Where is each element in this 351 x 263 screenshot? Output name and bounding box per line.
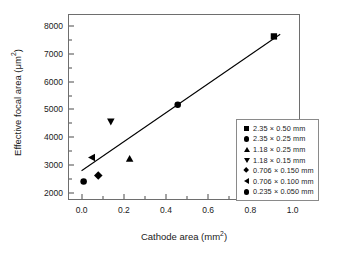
tri-down-icon: [244, 158, 250, 163]
x-tick-label: 0.2: [118, 199, 130, 215]
y-tick-mark-minor: [69, 123, 72, 124]
y-tick-label: 2000: [44, 188, 69, 197]
tri-left-icon: [244, 178, 249, 184]
legend-marker-tri-left-icon: [240, 178, 253, 184]
y-tick-mark-minor: [69, 67, 72, 68]
figure-scatter-cathode-vs-focal-area: 2000300040005000600070008000 0.00.20.40.…: [0, 0, 351, 263]
data-point: [107, 119, 115, 126]
x-axis-title-tail: ): [224, 231, 227, 242]
y-tick-label: 5000: [44, 105, 69, 114]
x-tick-label: 0.6: [202, 199, 214, 215]
legend-marker-tri-down-icon: [240, 158, 253, 163]
legend-item: 2.35 × 0.50 mm: [240, 123, 314, 134]
legend-item: 1.18 × 0.15 mm: [240, 155, 314, 166]
data-point: [88, 154, 95, 162]
y-tick-mark-minor: [69, 39, 72, 40]
y-tick-mark: [69, 137, 74, 138]
x-tick-mark-minor: [102, 196, 103, 199]
legend-marker-square-icon: [240, 126, 253, 132]
circle-icon: [244, 189, 250, 195]
legend-marker-tri-up-icon: [240, 147, 253, 152]
data-point: [80, 178, 87, 185]
legend-item-label: 0.706 × 0.100 mm: [253, 177, 314, 186]
legend-marker-circle-icon: [240, 136, 253, 142]
x-tick-label: 0.8: [244, 199, 256, 215]
x-tick-mark-minor: [229, 196, 230, 199]
y-tick-label: 3000: [44, 161, 69, 170]
data-point: [271, 33, 277, 39]
y-tick-label: 4000: [44, 133, 69, 142]
y-axis-title: Effective focal area (μm2): [12, 10, 23, 196]
y-tick-mark: [69, 109, 74, 110]
legend-item: 1.18 × 0.25 mm: [240, 144, 314, 155]
x-axis-title-text: Cathode area (mm: [141, 231, 220, 242]
data-point: [94, 171, 103, 180]
circle-icon: [244, 136, 250, 142]
legend-item: 0.706 × 0.100 mm: [240, 176, 314, 187]
x-axis-title: Cathode area (mm2): [68, 231, 300, 242]
y-tick-mark: [69, 26, 74, 27]
y-axis-title-exponent: 2: [10, 52, 17, 56]
legend-marker-diamond-icon: [240, 168, 253, 172]
y-axis-title-text: Effective focal area (μm: [12, 56, 23, 156]
y-tick-mark: [69, 53, 74, 54]
legend-item: 2.35 × 0.25 mm: [240, 134, 314, 145]
x-tick-label: 0.0: [76, 199, 88, 215]
x-tick-label: 1.0: [287, 199, 299, 215]
y-tick-mark-minor: [69, 178, 72, 179]
y-tick-mark: [69, 81, 74, 82]
x-tick-mark-minor: [144, 196, 145, 199]
legend-item-label: 2.35 × 0.25 mm: [253, 134, 305, 143]
legend-marker-circle-icon: [240, 189, 253, 195]
square-icon: [244, 126, 250, 132]
x-tick-label: 0.4: [160, 199, 172, 215]
y-tick-label: 6000: [44, 77, 69, 86]
data-point: [174, 102, 181, 109]
data-point: [126, 155, 134, 162]
legend-item-label: 0.706 × 0.150 mm: [253, 166, 314, 175]
legend-item: 0.235 × 0.050 mm: [240, 187, 314, 198]
y-tick-mark-minor: [69, 151, 72, 152]
legend-item: 0.706 × 0.150 mm: [240, 165, 314, 176]
legend-item-label: 1.18 × 0.25 mm: [253, 145, 305, 154]
y-axis-title-tail: ): [12, 49, 23, 52]
legend-item-label: 0.235 × 0.050 mm: [253, 187, 314, 196]
y-tick-label: 8000: [44, 22, 69, 31]
chart-legend: 2.35 × 0.50 mm2.35 × 0.25 mm1.18 × 0.25 …: [236, 119, 319, 201]
y-tick-label: 7000: [44, 50, 69, 59]
tri-up-icon: [244, 147, 250, 152]
legend-item-label: 2.35 × 0.50 mm: [253, 124, 305, 133]
x-tick-mark-minor: [187, 196, 188, 199]
y-tick-mark: [69, 192, 74, 193]
y-tick-mark-minor: [69, 95, 72, 96]
diamond-icon: [243, 168, 249, 174]
legend-item-label: 1.18 × 0.15 mm: [253, 156, 305, 165]
y-tick-mark: [69, 164, 74, 165]
